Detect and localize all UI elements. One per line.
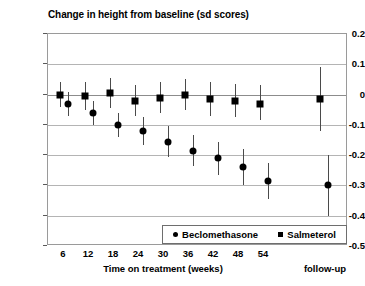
x-tick-label-54: 54	[250, 248, 276, 259]
legend-marker-circle-icon	[173, 232, 178, 237]
chart-figure: Change in height from baseline (sd score…	[0, 0, 365, 286]
marker-square	[132, 97, 139, 104]
y-tick-mark	[43, 124, 47, 125]
legend-marker-square-icon	[278, 232, 283, 237]
x-tick-label-24: 24	[125, 248, 151, 259]
legend-label: Salmeterol	[287, 229, 336, 240]
y-tick-label--0.5: -0.5	[323, 240, 365, 251]
y-tick-mark	[43, 63, 47, 64]
y-tick-label--0.1: -0.1	[323, 118, 365, 129]
gridline-y--0.1	[48, 125, 346, 126]
y-tick-mark	[43, 94, 47, 95]
legend-label: Beclomethasone	[182, 229, 258, 240]
gridline-y--0.4	[48, 216, 346, 217]
marker-square	[82, 93, 89, 100]
x-tick-label-12: 12	[75, 248, 101, 259]
y-tick-mark	[43, 245, 47, 246]
chart-title: Change in height from baseline (sd score…	[48, 9, 249, 20]
y-tick-mark	[43, 184, 47, 185]
marker-circle	[65, 100, 72, 107]
legend-entry-beclomethasone: Beclomethasone	[173, 229, 258, 240]
marker-square	[257, 100, 264, 107]
marker-circle	[215, 155, 222, 162]
marker-circle	[165, 138, 172, 145]
x-tick-label-30: 30	[150, 248, 176, 259]
y-tick-label-0: 0	[323, 88, 365, 99]
marker-square	[207, 96, 214, 103]
plot-area	[47, 33, 347, 245]
y-tick-label-0.2: 0.2	[323, 28, 365, 39]
gridline-y-0	[48, 95, 346, 96]
y-tick-label--0.3: -0.3	[323, 179, 365, 190]
marker-circle	[240, 164, 247, 171]
marker-circle	[190, 147, 197, 154]
marker-square	[182, 91, 189, 98]
gridline-y--0.2	[48, 155, 346, 156]
x-tick-label-18: 18	[100, 248, 126, 259]
chart-legend: BeclomethasoneSalmeterol	[162, 225, 347, 244]
marker-circle	[115, 121, 122, 128]
y-tick-mark	[43, 215, 47, 216]
gridline-y--0.3	[48, 185, 346, 186]
marker-square	[57, 91, 64, 98]
x-tick-label-36: 36	[175, 248, 201, 259]
y-tick-label--0.4: -0.4	[323, 209, 365, 220]
followup-axis-label: follow-up	[287, 263, 363, 274]
x-tick-label-6: 6	[50, 248, 76, 259]
marker-square	[232, 97, 239, 104]
marker-circle	[140, 127, 147, 134]
x-tick-label-42: 42	[200, 248, 226, 259]
legend-entry-salmeterol: Salmeterol	[278, 229, 336, 240]
y-tick-label-0.1: 0.1	[323, 58, 365, 69]
y-tick-label--0.2: -0.2	[323, 149, 365, 160]
x-axis-label: Time on treatment (weeks)	[48, 263, 278, 274]
y-tick-mark	[43, 154, 47, 155]
marker-circle	[90, 109, 97, 116]
gridline-y-0.1	[48, 64, 346, 65]
marker-circle	[265, 177, 272, 184]
marker-square	[157, 94, 164, 101]
marker-square	[107, 90, 114, 97]
x-tick-label-48: 48	[225, 248, 251, 259]
y-tick-mark	[43, 33, 47, 34]
